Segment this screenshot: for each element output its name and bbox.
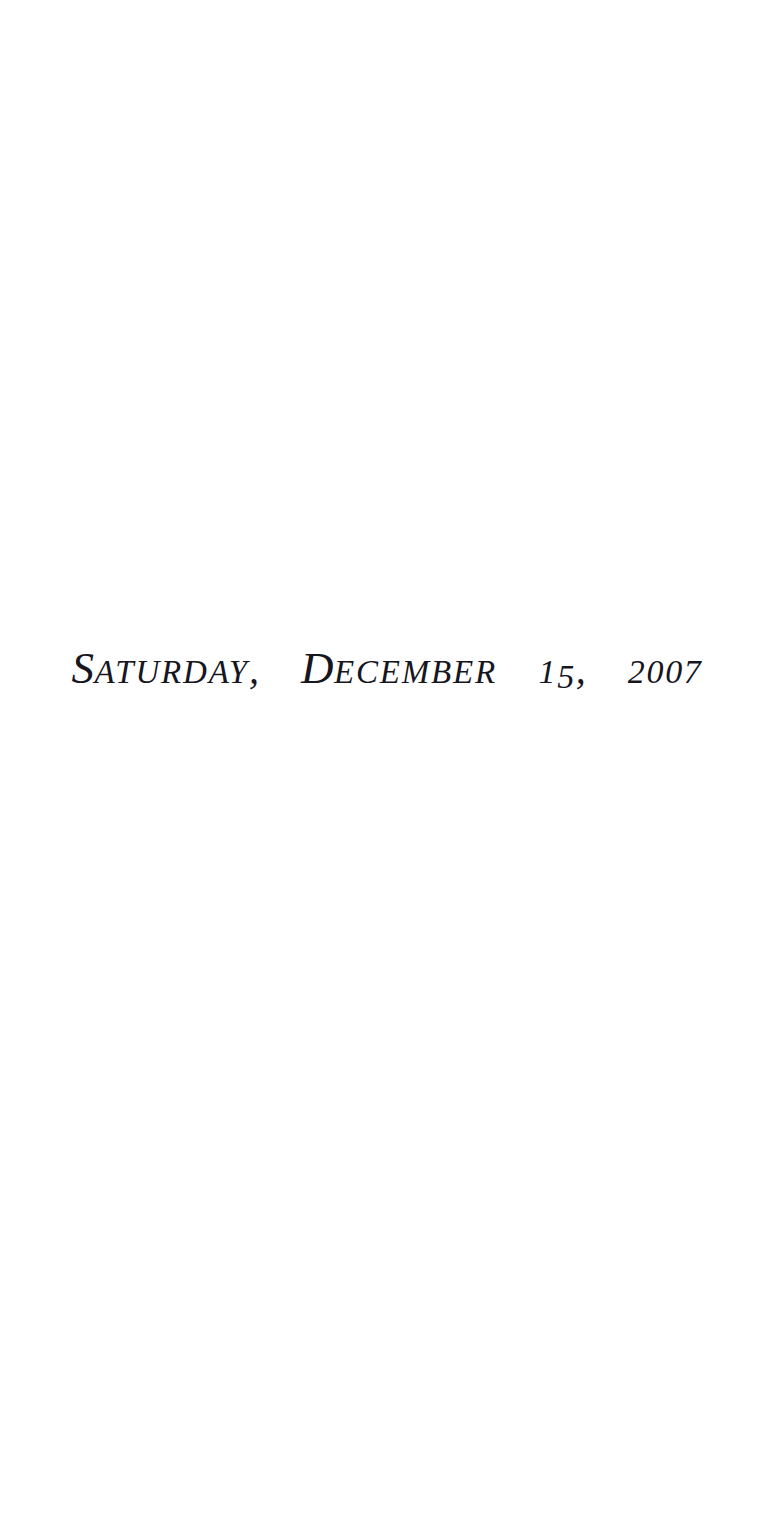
day-digit-1: 1 bbox=[538, 644, 557, 700]
weekday-rest: ATURDAY bbox=[94, 654, 249, 690]
day-digit-2: 5 bbox=[557, 649, 576, 705]
month-initial: D bbox=[301, 643, 334, 693]
scanned-page: SATURDAY, DECEMBER 15, 2007 bbox=[0, 0, 782, 1514]
comma-after-weekday: , bbox=[249, 647, 259, 692]
date-heading: SATURDAY, DECEMBER 15, 2007 bbox=[71, 640, 702, 700]
year-digit-3: 0 bbox=[665, 644, 684, 700]
comma-after-day: , bbox=[576, 647, 586, 692]
weekday-initial: S bbox=[71, 643, 94, 693]
year-digit-2: 0 bbox=[646, 644, 665, 700]
month-rest: ECEMBER bbox=[334, 654, 497, 690]
year-digit-4: 7 bbox=[684, 644, 703, 700]
year-digit-1: 2 bbox=[628, 644, 647, 700]
date-heading-block: SATURDAY, DECEMBER 15, 2007 bbox=[0, 640, 782, 700]
